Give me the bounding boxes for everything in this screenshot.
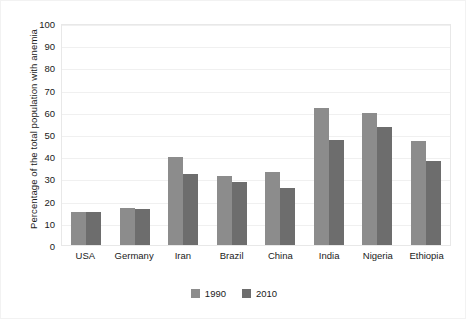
plot-area (61, 24, 451, 246)
bar-group (306, 25, 351, 245)
bar-groups (62, 25, 450, 245)
x-axis-tick: Germany (112, 250, 157, 268)
bar-nigeria-1990 (362, 113, 377, 245)
bar-india-2010 (329, 140, 344, 245)
legend-label: 2010 (256, 288, 277, 299)
x-axis-tick: Brazil (209, 250, 254, 268)
legend-item-2010[interactable]: 2010 (242, 288, 277, 299)
y-axis-tick: 70 (29, 85, 55, 96)
y-axis-tick: 30 (29, 174, 55, 185)
bar-iran-1990 (168, 157, 183, 245)
legend-item-1990[interactable]: 1990 (191, 288, 226, 299)
bar-india-1990 (314, 108, 329, 245)
bar-germany-2010 (135, 209, 150, 245)
bar-group (209, 25, 254, 245)
y-axis-tick: 90 (29, 41, 55, 52)
x-axis-tick: India (307, 250, 352, 268)
bar-group (258, 25, 303, 245)
y-axis-tick: 20 (29, 196, 55, 207)
y-axis-tick: 80 (29, 63, 55, 74)
legend-swatch-icon (191, 289, 200, 298)
y-axis-tick: 10 (29, 218, 55, 229)
bar-brazil-1990 (217, 176, 232, 245)
bar-usa-2010 (86, 212, 101, 245)
bar-usa-1990 (71, 212, 86, 245)
x-axis-tick: Ethiopia (404, 250, 449, 268)
x-axis-tick: Iran (160, 250, 205, 268)
bar-group (112, 25, 157, 245)
y-axis-tick: 50 (29, 130, 55, 141)
bar-china-1990 (265, 172, 280, 245)
bar-china-2010 (280, 188, 295, 245)
y-axis-tick: 0 (29, 241, 55, 252)
x-axis-tick-labels: USAGermanyIranBrazilChinaIndiaNigeriaEth… (61, 250, 451, 268)
bar-group (64, 25, 109, 245)
chart-container: Percentage of the total population with … (0, 0, 466, 319)
x-axis-tick: USA (63, 250, 108, 268)
bar-group (403, 25, 448, 245)
bar-group (355, 25, 400, 245)
bar-brazil-2010 (232, 182, 247, 245)
legend-label: 1990 (205, 288, 226, 299)
y-axis-tick-labels: 1009080706050403020100 (29, 24, 55, 246)
bar-germany-1990 (120, 208, 135, 245)
bar-group (161, 25, 206, 245)
y-axis-tick: 60 (29, 107, 55, 118)
bar-nigeria-2010 (377, 127, 392, 245)
bar-ethiopia-1990 (411, 141, 426, 245)
x-axis-tick: China (258, 250, 303, 268)
chart-legend: 19902010 (1, 288, 466, 299)
bar-ethiopia-2010 (426, 161, 441, 245)
bar-iran-2010 (183, 174, 198, 245)
y-axis-tick: 40 (29, 152, 55, 163)
y-axis-tick: 100 (29, 19, 55, 30)
x-axis-tick: Nigeria (355, 250, 400, 268)
legend-swatch-icon (242, 289, 251, 298)
